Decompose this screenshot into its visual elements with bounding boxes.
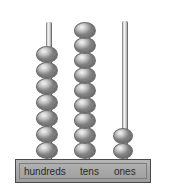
bead-tens-6[interactable]: [74, 67, 96, 84]
base-label-hundreds: hundreds: [24, 164, 66, 180]
bead-tens-7[interactable]: [74, 52, 96, 69]
abacus-figure: hundreds tens ones: [0, 0, 169, 194]
bead-ones-1[interactable]: [113, 143, 133, 159]
bead-tens-2[interactable]: [74, 127, 96, 144]
bead-ones-2[interactable]: [113, 128, 133, 144]
bead-hundreds-2[interactable]: [36, 126, 58, 143]
bead-hundreds-7[interactable]: [36, 46, 58, 63]
bead-hundreds-3[interactable]: [36, 110, 58, 127]
bead-tens-9[interactable]: [74, 22, 96, 39]
base-label-tens: tens: [80, 164, 99, 180]
bead-tens-8[interactable]: [74, 37, 96, 54]
bead-hundreds-6[interactable]: [36, 62, 58, 79]
bead-hundreds-1[interactable]: [36, 142, 58, 159]
bead-tens-1[interactable]: [74, 142, 96, 159]
bead-hundreds-4[interactable]: [36, 94, 58, 111]
bead-tens-3[interactable]: [74, 112, 96, 129]
base-label-ones: ones: [114, 164, 136, 180]
bead-tens-4[interactable]: [74, 97, 96, 114]
bead-tens-5[interactable]: [74, 82, 96, 99]
abacus-base-bar: hundreds tens ones: [15, 159, 151, 183]
bead-hundreds-5[interactable]: [36, 78, 58, 95]
